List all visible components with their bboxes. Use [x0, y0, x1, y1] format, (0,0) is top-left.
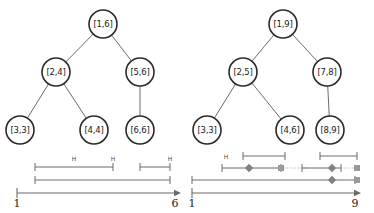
tree-node-label: [5,6]	[130, 67, 149, 77]
tree-edge	[112, 35, 132, 61]
tree-node-label: [6,6]	[130, 125, 149, 135]
square-marker[interactable]	[354, 177, 360, 183]
figure-canvas: [1,6][2,4][5,6][3,3][4,4][6,6]HHH16[1,9]…	[0, 0, 374, 213]
h-mark-label: H	[111, 155, 116, 162]
tree-edge	[252, 83, 281, 119]
axis-start-label: 1	[189, 197, 196, 210]
axis-arrow-icon	[354, 190, 361, 196]
diamond-marker[interactable]	[328, 176, 336, 184]
tree-edge	[66, 34, 93, 62]
tree-edge	[292, 34, 317, 61]
axis-end-label: 6	[172, 197, 179, 210]
tree-node-label: [4,4]	[84, 125, 103, 135]
square-marker[interactable]	[278, 165, 284, 171]
tree-edge	[214, 84, 235, 118]
axis-start-label: 1	[14, 197, 21, 210]
tree-edge	[64, 84, 87, 119]
square-marker[interactable]	[354, 165, 360, 171]
tree-node-label: [8,9]	[320, 125, 339, 135]
tree-node-label: [1,9]	[273, 19, 292, 29]
tree-node-label: [1,6]	[93, 19, 112, 29]
tree-node-label: [7,8]	[317, 67, 336, 77]
segment-tree-figure: [1,6][2,4][5,6][3,3][4,4][6,6]HHH16[1,9]…	[0, 0, 374, 213]
diamond-marker[interactable]	[328, 164, 336, 172]
h-mark-label: H	[72, 155, 77, 162]
diamond-marker[interactable]	[245, 164, 253, 172]
tree-node-label: [3,3]	[10, 125, 29, 135]
tree-edge	[27, 84, 48, 118]
axis-arrow-icon	[174, 190, 181, 196]
tree-node-label: [2,4]	[46, 67, 65, 77]
tree-edge	[328, 86, 330, 116]
h-mark-label: H	[168, 155, 173, 162]
h-mark-label: H	[224, 153, 229, 160]
tree-node-label: [2,5]	[233, 67, 252, 77]
tree-edge	[252, 35, 274, 61]
axis-end-label: 9	[352, 197, 359, 210]
tree-node-label: [4,6]	[280, 125, 299, 135]
tree-node-label: [3,3]	[197, 125, 216, 135]
